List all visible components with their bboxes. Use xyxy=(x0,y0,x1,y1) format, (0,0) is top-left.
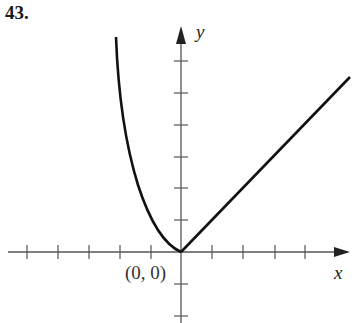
x-axis-label: x xyxy=(334,262,342,284)
y-axis xyxy=(174,26,188,323)
left-curve-branch xyxy=(116,37,181,252)
x-axis-arrow-icon xyxy=(334,247,350,257)
origin-label: (0, 0) xyxy=(125,262,166,284)
y-axis-label: y xyxy=(196,21,204,43)
graph xyxy=(0,0,361,323)
y-axis-arrow-icon xyxy=(176,26,186,44)
right-line-branch xyxy=(181,77,350,252)
